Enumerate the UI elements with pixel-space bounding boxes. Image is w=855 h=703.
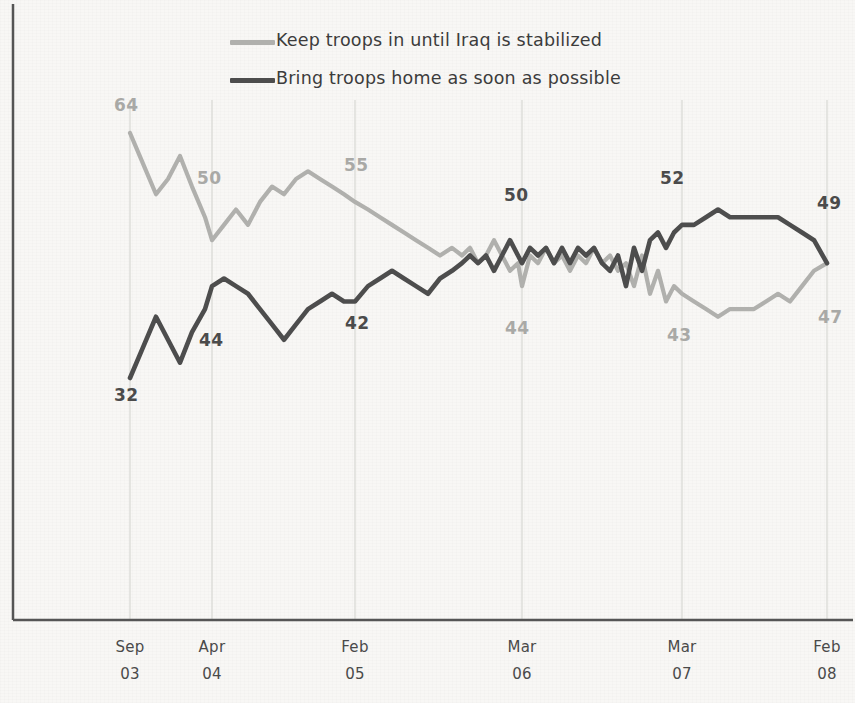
legend-label-keep-troops: Keep troops in until Iraq is stabilized bbox=[276, 30, 602, 50]
x-tick-month: Mar bbox=[482, 638, 562, 656]
x-tick-year: 05 bbox=[315, 665, 395, 683]
data-label-bring-troops-mar-06: 50 bbox=[504, 185, 529, 205]
x-tick-mar-07: Mar07 bbox=[642, 638, 722, 683]
legend-swatch-bring-troops bbox=[230, 78, 275, 83]
x-tick-apr-04: Apr04 bbox=[172, 638, 252, 683]
legend-label-bring-troops: Bring troops home as soon as possible bbox=[276, 68, 621, 88]
data-label-bring-troops-mar-07: 52 bbox=[660, 168, 685, 188]
x-tick-month: Apr bbox=[172, 638, 252, 656]
legend-swatch-keep-troops bbox=[230, 40, 275, 45]
x-tick-year: 03 bbox=[90, 665, 170, 683]
x-tick-year: 06 bbox=[482, 665, 562, 683]
series-line-bring-troops bbox=[130, 210, 827, 378]
x-tick-month: Feb bbox=[315, 638, 395, 656]
data-label-keep-troops-sep-03: 64 bbox=[114, 95, 139, 115]
data-label-bring-troops-sep-03: 32 bbox=[114, 385, 139, 405]
data-label-bring-troops-feb-08: 49 bbox=[817, 193, 842, 213]
data-label-keep-troops-mar-06: 44 bbox=[505, 318, 530, 338]
data-label-bring-troops-apr-04: 44 bbox=[199, 330, 224, 350]
series-line-keep-troops bbox=[130, 133, 827, 317]
x-tick-year: 07 bbox=[642, 665, 722, 683]
series-layer bbox=[130, 133, 827, 378]
x-tick-year: 08 bbox=[787, 665, 855, 683]
iraq-troops-line-chart: Keep troops in until Iraq is stabilizedB… bbox=[0, 0, 855, 703]
data-label-bring-troops-feb-05: 42 bbox=[345, 313, 370, 333]
x-tick-feb-05: Feb05 bbox=[315, 638, 395, 683]
data-label-keep-troops-mar-07: 43 bbox=[667, 325, 692, 345]
x-tick-month: Feb bbox=[787, 638, 855, 656]
data-label-keep-troops-feb-05: 55 bbox=[344, 155, 369, 175]
data-label-keep-troops-apr-04: 50 bbox=[197, 168, 222, 188]
gridlines bbox=[130, 100, 827, 619]
x-tick-month: Sep bbox=[90, 638, 170, 656]
x-tick-mar-06: Mar06 bbox=[482, 638, 562, 683]
x-tick-year: 04 bbox=[172, 665, 252, 683]
x-tick-month: Mar bbox=[642, 638, 722, 656]
x-tick-feb-08: Feb08 bbox=[787, 638, 855, 683]
data-label-keep-troops-feb-08: 47 bbox=[818, 307, 843, 327]
x-tick-sep-03: Sep03 bbox=[90, 638, 170, 683]
